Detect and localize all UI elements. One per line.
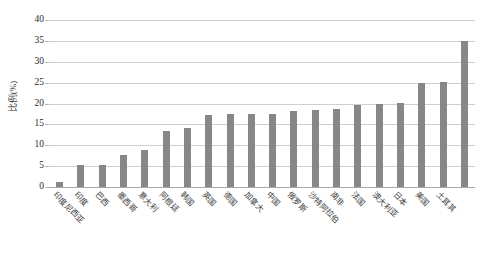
bar[interactable] (418, 83, 425, 187)
bar-chart: 比例(%) 4035302520151050 印度尼西亚印度巴西墨西哥意大利阿根… (0, 0, 482, 264)
x-axis-category-label: 法国 (349, 191, 366, 208)
y-axis-tick-label: 10 (35, 140, 45, 150)
y-axis-tick-label: 20 (35, 99, 45, 109)
bar[interactable] (184, 128, 191, 187)
x-axis-category-label: 墨西哥 (115, 191, 138, 214)
bar[interactable] (397, 103, 404, 187)
bar[interactable] (56, 182, 63, 187)
bar[interactable] (120, 155, 127, 187)
x-axis-category-label: 意大利 (136, 191, 159, 214)
plot-area: 4035302520151050 (49, 20, 475, 188)
bar[interactable] (248, 114, 255, 187)
y-axis-tick-label: 35 (35, 36, 45, 46)
y-axis-title-label: 比例(%) (7, 80, 20, 112)
y-axis-tick-label: 25 (35, 78, 45, 88)
x-axis-category-label: 加拿大 (243, 191, 266, 214)
x-axis-category-label: 土耳其 (434, 191, 457, 214)
bar[interactable] (99, 165, 106, 187)
x-axis-category-label: 德国 (221, 191, 238, 208)
x-axis-category-label: 韩国 (179, 191, 196, 208)
x-axis-category-label: 日本 (392, 191, 409, 208)
bar[interactable] (333, 109, 340, 187)
x-axis-category-label: 美国 (413, 191, 430, 208)
y-axis-tick-label: 40 (35, 15, 45, 25)
bar[interactable] (163, 131, 170, 187)
x-axis-category-label: 英国 (200, 191, 217, 208)
y-axis-tick-label: 15 (35, 119, 45, 129)
y-axis-title: 比例(%) (0, 0, 26, 192)
x-axis-category-label: 阿根廷 (157, 191, 180, 214)
x-axis-category-label: 印度 (72, 191, 89, 208)
bar[interactable] (77, 165, 84, 187)
bar[interactable] (290, 111, 297, 187)
x-axis-category-labels: 印度尼西亚印度巴西墨西哥意大利阿根廷韩国英国德国加拿大中国俄罗斯沙特阿拉伯南非法… (49, 189, 475, 264)
y-axis-tick-label: 30 (35, 57, 45, 67)
x-axis-category-label: 南非 (328, 191, 345, 208)
bar[interactable] (354, 105, 361, 187)
bar[interactable] (461, 41, 468, 187)
bar[interactable] (440, 82, 447, 187)
x-axis-category-label: 俄罗斯 (285, 191, 308, 214)
bar[interactable] (141, 150, 148, 187)
bar[interactable] (227, 114, 234, 187)
x-axis-category-label: 中国 (264, 191, 281, 208)
y-axis-tick-label: 5 (39, 161, 44, 171)
y-axis-tick-mark (45, 187, 49, 188)
y-axis-tick-label: 0 (39, 182, 44, 192)
bar[interactable] (312, 110, 319, 187)
x-axis-category-label: 巴西 (94, 191, 111, 208)
bar[interactable] (269, 114, 276, 187)
bar[interactable] (376, 104, 383, 187)
bar[interactable] (205, 115, 212, 187)
bars-layer (49, 20, 475, 187)
